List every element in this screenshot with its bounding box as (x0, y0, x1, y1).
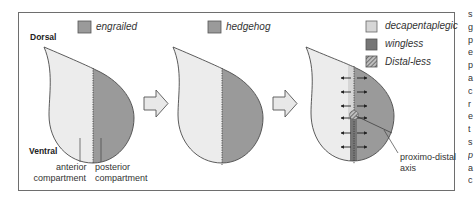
proximo-distal-label-line1: proximo-distal (400, 152, 456, 162)
posterior-label-line1: posterior (95, 162, 130, 172)
progression-arrow-1-icon (144, 90, 168, 117)
legend-label-hedgehog: hedgehog (226, 22, 271, 32)
adjacent-text-char: a (468, 72, 476, 85)
legend-swatch-decapentaplegic (366, 21, 377, 32)
adjacent-text-char: a (468, 162, 476, 175)
posterior-compartment-region (93, 40, 143, 170)
wing-disc-panel-2 (169, 40, 272, 170)
ventral-label: Ventral (29, 146, 57, 156)
adjacent-text-char: c (468, 174, 476, 187)
wingless-stripe (350, 115, 357, 170)
adjacent-text-char: e (468, 46, 476, 59)
distal-less-spot (350, 111, 359, 120)
anterior-label-line1: anterior (56, 162, 86, 172)
legend-swatch-hedgehog (208, 21, 221, 33)
adjacent-text-char: s (468, 136, 476, 149)
legend-label-engrailed: engrailed (96, 22, 137, 32)
adjacent-text-char: s (468, 8, 476, 21)
posterior-label-line2: compartment (95, 173, 148, 183)
adjacent-text-char: p (468, 59, 476, 72)
adjacent-text-char: e (468, 110, 476, 123)
legend-label-decapentaplegic: decapentaplegic (385, 21, 458, 31)
decapentaplegic-stripe (348, 40, 354, 120)
adjacent-text-column: s g p e p a c r e t s p a c (468, 8, 476, 187)
adjacent-text-char: p (468, 149, 476, 162)
adjacent-text-char: c (468, 85, 476, 98)
legend-swatch-wingless (366, 39, 377, 50)
proximo-distal-label-line2: axis (400, 163, 416, 173)
adjacent-text-char: p (468, 34, 476, 47)
progression-arrow-2-icon (273, 90, 297, 117)
legend-label-wingless: wingless (385, 39, 423, 49)
adjacent-text-char: r (468, 98, 476, 111)
adjacent-text-char: g (468, 21, 476, 34)
legend-swatch-engrailed (78, 21, 91, 33)
dorsal-label: Dorsal (30, 32, 56, 42)
legend-swatch-distal-less (366, 56, 377, 67)
legend-label-distal-less: Distal-less (385, 57, 431, 67)
adjacent-text-char: t (468, 123, 476, 136)
anterior-label-line2: compartment (33, 173, 86, 183)
